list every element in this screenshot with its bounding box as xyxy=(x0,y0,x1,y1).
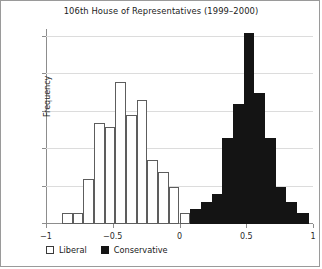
histogram-bar xyxy=(201,202,212,225)
histogram-bar xyxy=(180,213,191,224)
x-tick-mark xyxy=(246,224,247,228)
x-tick-mark xyxy=(113,224,114,228)
x-tick-label: 0.5 xyxy=(226,232,266,241)
plot-area: 01020304050 −1−0.500.51 Frequency xyxy=(46,29,313,224)
histogram-bar xyxy=(126,115,137,224)
histogram-bar xyxy=(254,93,265,224)
histogram-bar xyxy=(286,202,297,225)
histogram-bar xyxy=(83,179,94,224)
histogram-bar xyxy=(73,213,84,224)
histogram-bar xyxy=(222,138,233,224)
histogram-bar xyxy=(158,172,169,225)
x-tick-mark xyxy=(313,224,314,228)
chart-legend: Liberal Conservative xyxy=(46,245,168,255)
x-tick-label: −0.5 xyxy=(93,232,133,241)
histogram-bar xyxy=(297,213,309,224)
chart-title: 106th House of Representatives (1999–200… xyxy=(1,6,320,16)
y-tick-mark xyxy=(42,36,46,37)
histogram-bar xyxy=(265,138,276,224)
legend-swatch-conservative-icon xyxy=(101,246,109,254)
x-tick-mark xyxy=(180,224,181,228)
legend-swatch-liberal-icon xyxy=(46,246,54,254)
y-axis-line xyxy=(46,29,47,224)
histogram-bar xyxy=(190,209,201,224)
legend-label-liberal: Liberal xyxy=(59,245,87,255)
legend-label-conservative: Conservative xyxy=(114,245,168,255)
gridline xyxy=(46,36,313,37)
histogram-bar xyxy=(244,33,255,224)
histogram-bar xyxy=(147,160,158,224)
histogram-bar xyxy=(169,187,180,225)
histogram-bar xyxy=(233,104,244,224)
histogram-bar xyxy=(115,82,126,225)
histogram-bar xyxy=(212,194,223,224)
histogram-bar xyxy=(94,123,105,224)
histogram-bar xyxy=(62,213,73,224)
legend-item-liberal: Liberal xyxy=(46,245,87,255)
y-axis-label: Frequency xyxy=(43,76,52,117)
y-tick-mark xyxy=(42,73,46,74)
y-tick-mark xyxy=(42,148,46,149)
x-tick-label: 1 xyxy=(293,232,320,241)
x-tick-label: −1 xyxy=(26,232,66,241)
legend-item-conservative: Conservative xyxy=(101,245,168,255)
figure-histogram: 106th House of Representatives (1999–200… xyxy=(0,0,320,267)
histogram-bar xyxy=(105,127,116,225)
x-tick-mark xyxy=(46,224,47,228)
y-tick-mark xyxy=(42,186,46,187)
histogram-bar xyxy=(276,187,287,225)
gridline xyxy=(46,111,313,112)
x-tick-label: 0 xyxy=(160,232,200,241)
histogram-bar xyxy=(137,100,148,224)
gridline xyxy=(46,73,313,74)
